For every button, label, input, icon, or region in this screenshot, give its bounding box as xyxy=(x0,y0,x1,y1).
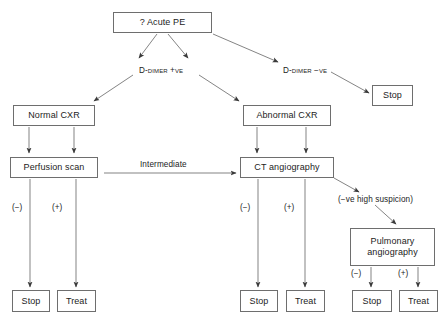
node-treat-left[interactable]: Treat xyxy=(57,290,96,312)
node-perfusion-scan[interactable]: Perfusion scan xyxy=(10,157,98,178)
flowchart-diagram: ? Acute PE Stop Normal CXR Abnormal CXR … xyxy=(0,0,446,330)
sign-label-ct-positive: (+) xyxy=(284,203,294,213)
edge-ddimerpos-to-normalcxr xyxy=(94,75,133,101)
node-treat-middle[interactable]: Treat xyxy=(286,290,325,312)
edge-label-negative-high-suspicion: (−ve high suspicion) xyxy=(338,195,413,205)
edge-label-d-dimer-positive: D-dimer +ve xyxy=(139,66,183,76)
node-treat-right[interactable]: Treat xyxy=(399,290,438,312)
node-stop-left[interactable]: Stop xyxy=(12,290,50,312)
node-pulmonary-angiography[interactable]: Pulmonary angiography xyxy=(350,228,435,266)
node-abnormal-cxr[interactable]: Abnormal CXR xyxy=(243,105,331,126)
node-ct-angiography[interactable]: CT angiography xyxy=(240,157,334,178)
edge-acutepe-to-ddimerpos-right xyxy=(168,34,188,58)
sign-label-pulmonary-positive: (+) xyxy=(398,269,408,279)
node-stop-middle[interactable]: Stop xyxy=(240,290,278,312)
edge-acutepe-to-ddimerneg xyxy=(213,34,278,62)
sign-label-ct-negative: (−) xyxy=(240,203,250,213)
edge-ddimerpos-to-abnormalcxr xyxy=(199,75,239,101)
sign-label-perfusion-positive: (+) xyxy=(52,203,62,213)
sign-label-pulmonary-negative: (−) xyxy=(351,269,361,279)
edge-label-intermediate: Intermediate xyxy=(140,160,187,170)
node-stop-top[interactable]: Stop xyxy=(372,85,413,106)
edge-acutepe-to-ddimerpos-left xyxy=(139,34,157,58)
edge-label-d-dimer-negative: D-dimer −ve xyxy=(283,66,327,76)
node-stop-right[interactable]: Stop xyxy=(352,290,392,312)
edge-ddimerneg-to-stop xyxy=(331,72,369,93)
edge-suspicion-to-pulmangio xyxy=(375,205,396,224)
edge-ctangio-to-suspicion xyxy=(334,178,359,192)
node-normal-cxr[interactable]: Normal CXR xyxy=(13,105,95,126)
node-acute-pe[interactable]: ? Acute PE xyxy=(113,12,212,33)
sign-label-perfusion-negative: (−) xyxy=(12,203,22,213)
